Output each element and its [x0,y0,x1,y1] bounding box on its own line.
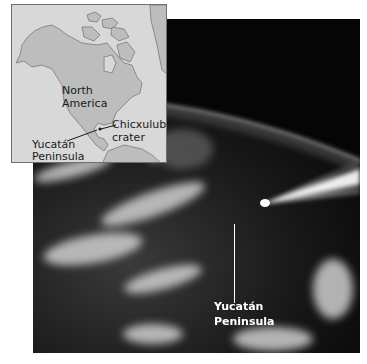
yucatan-label-line2: Peninsula [32,150,85,163]
photo-yucatan-label-line1: Yucatán [214,299,263,314]
chicxulub-label-line2: crater [112,131,145,144]
north-america-label-line2: America [62,97,107,110]
photo-yucatan-label-line2: Peninsula [214,314,275,329]
inset-map: North America Chicxulub crater Yucatán P… [11,4,167,163]
north-america-label-line1: North [62,84,93,97]
chicxulub-label-line1: Chicxulub [112,118,166,131]
